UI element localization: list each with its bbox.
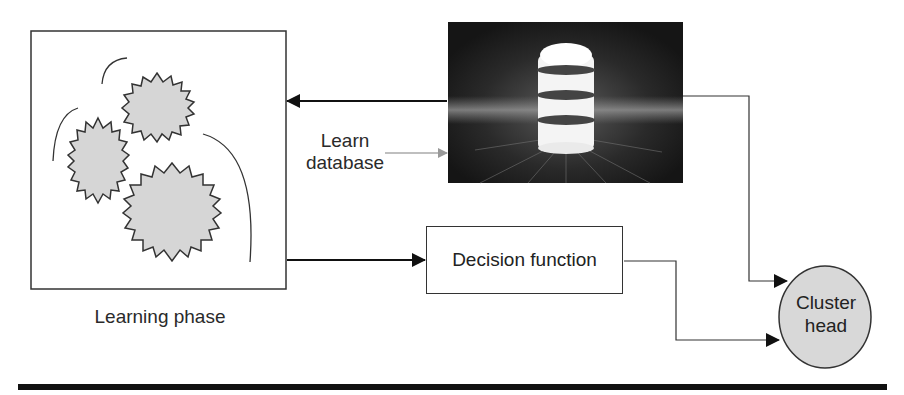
cluster-head-line1: Cluster (782, 292, 870, 315)
bottom-divider-bar (18, 384, 887, 390)
connector-decision-to-cluster-head (624, 261, 779, 340)
connector-database-to-cluster-head (683, 96, 787, 281)
database-image (448, 22, 683, 183)
cluster-head-label: Cluster head (782, 292, 870, 338)
learn-database-label: Learn database (305, 130, 385, 174)
learn-database-line1: Learn (305, 130, 385, 152)
database-icon (537, 43, 595, 154)
decision-function-box: Decision function (426, 226, 623, 294)
diagram-canvas (0, 0, 904, 395)
cluster-head-line2: head (782, 315, 870, 338)
learning-phase-label: Learning phase (60, 306, 260, 328)
learn-database-line2: database (305, 152, 385, 174)
decision-function-label: Decision function (452, 249, 597, 271)
learning-phase-box (31, 31, 286, 289)
